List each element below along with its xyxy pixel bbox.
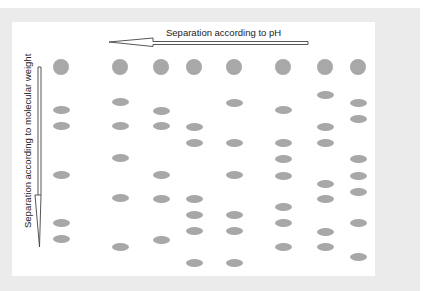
protein-band	[317, 195, 334, 203]
protein-band	[186, 195, 203, 203]
protein-band	[226, 227, 243, 235]
protein-band	[153, 195, 170, 203]
protein-band	[186, 227, 203, 235]
sample-well-4	[186, 59, 202, 75]
protein-band	[112, 122, 129, 130]
protein-band	[350, 172, 367, 180]
protein-band	[53, 122, 70, 130]
protein-band	[53, 235, 70, 243]
protein-band	[275, 139, 292, 147]
protein-band	[226, 259, 243, 267]
protein-band	[317, 123, 334, 131]
protein-band	[350, 253, 367, 261]
protein-band	[350, 115, 367, 123]
protein-band	[317, 91, 334, 99]
protein-band	[226, 211, 243, 219]
protein-band	[112, 154, 129, 162]
sample-well-2	[112, 59, 128, 75]
protein-band	[112, 98, 129, 106]
protein-band	[186, 259, 203, 267]
protein-band	[350, 99, 367, 107]
protein-band	[317, 243, 334, 251]
sample-well-7	[317, 59, 333, 75]
protein-band	[112, 243, 129, 251]
protein-band	[153, 107, 170, 115]
protein-band	[226, 171, 243, 179]
protein-band	[317, 180, 334, 188]
protein-band	[275, 219, 292, 227]
arrows	[0, 0, 431, 291]
sample-well-3	[153, 59, 169, 75]
protein-band	[226, 99, 243, 107]
protein-band	[317, 139, 334, 147]
protein-band	[275, 172, 292, 180]
protein-band	[153, 122, 170, 130]
ph-arrow-icon	[109, 38, 308, 47]
sample-well-6	[275, 59, 291, 75]
protein-band	[112, 194, 129, 202]
protein-band	[350, 155, 367, 163]
protein-band	[153, 236, 170, 244]
protein-band	[350, 219, 367, 227]
sample-well-5	[226, 59, 242, 75]
protein-band	[275, 106, 292, 114]
protein-band	[275, 155, 292, 163]
protein-band	[317, 228, 334, 236]
protein-band	[275, 243, 292, 251]
protein-band	[53, 106, 70, 114]
protein-band	[226, 139, 243, 147]
protein-band	[53, 171, 70, 179]
sample-well-1	[53, 59, 69, 75]
molecular-weight-arrow-icon	[35, 67, 41, 247]
protein-band	[53, 219, 70, 227]
protein-band	[186, 211, 203, 219]
protein-band	[186, 123, 203, 131]
protein-band	[153, 171, 170, 179]
protein-band	[275, 203, 292, 211]
protein-band	[350, 188, 367, 196]
protein-band	[186, 139, 203, 147]
sample-well-8	[350, 59, 366, 75]
